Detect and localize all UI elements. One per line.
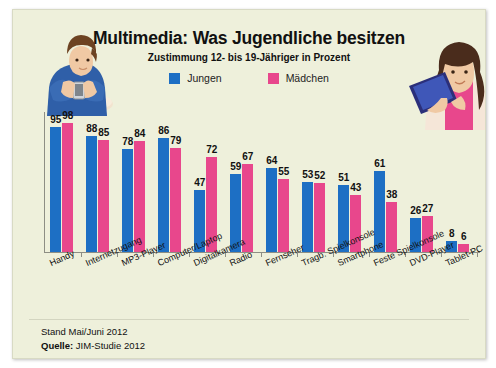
legend-label-jungen: Jungen <box>187 72 221 84</box>
bar-fill <box>98 140 109 252</box>
bar-value-label: 88 <box>86 123 97 134</box>
bar-value-label: 43 <box>350 182 361 193</box>
bar-group: 8679 <box>158 138 181 252</box>
bar-value-label: 79 <box>170 135 181 146</box>
bar-fill <box>158 138 169 252</box>
axis-tick <box>261 253 262 257</box>
bar-fill <box>170 148 181 252</box>
infographic-panel: Multimedia: Was Jugendliche besitzen Zus… <box>12 9 486 359</box>
legend-swatch-maedchen <box>268 73 279 84</box>
bar-value-label: 47 <box>194 177 205 188</box>
bar-maedchen: 52 <box>314 183 325 252</box>
bar-fill <box>266 168 277 252</box>
bar-maedchen: 79 <box>170 148 181 252</box>
page-title: Multimedia: Was Jugendliche besitzen <box>13 28 485 49</box>
bar-value-label: 95 <box>50 114 61 125</box>
bar-fill <box>50 127 61 252</box>
bar-fill <box>278 179 289 252</box>
bar-fill <box>302 182 313 252</box>
bar-value-label: 26 <box>410 205 421 216</box>
bar-value-label: 86 <box>158 125 169 136</box>
bar-fill <box>314 183 325 252</box>
legend-entry-jungen: Jungen <box>169 72 221 84</box>
bar-jungen: 53 <box>302 182 313 252</box>
legend-entry-maedchen: Mädchen <box>268 72 329 84</box>
bar-value-label: 38 <box>386 189 397 200</box>
bar-value-label: 72 <box>206 144 217 155</box>
axis-tick <box>81 253 82 257</box>
bar-group: 9598 <box>50 123 73 252</box>
bar-value-label: 85 <box>98 127 109 138</box>
bar-maedchen: 38 <box>386 202 397 252</box>
legend-label-maedchen: Mädchen <box>286 72 329 84</box>
footer-source: Quelle: JIM-Studie 2012 <box>41 339 145 353</box>
footer-divider <box>29 319 469 320</box>
bar-jungen: 88 <box>86 136 97 252</box>
bar-maedchen: 85 <box>98 140 109 252</box>
bar-jungen: 86 <box>158 138 169 252</box>
bar-value-label: 61 <box>374 158 385 169</box>
footer-source-value: JIM-Studie 2012 <box>76 340 145 351</box>
bar-jungen: 95 <box>50 127 61 252</box>
footer-stand: Stand Mai/Juni 2012 <box>41 325 145 339</box>
bar-value-label: 59 <box>230 161 241 172</box>
bar-group: 5352 <box>302 182 325 252</box>
bar-value-label: 52 <box>314 170 325 181</box>
bar-maedchen: 98 <box>62 123 73 252</box>
bar-maedchen: 55 <box>278 179 289 252</box>
bar-value-label: 51 <box>338 172 349 183</box>
footer-note: Stand Mai/Juni 2012 Quelle: JIM-Studie 2… <box>41 325 145 353</box>
bar-maedchen: 67 <box>242 164 253 252</box>
bar-value-label: 53 <box>302 169 313 180</box>
bar-value-label: 98 <box>62 110 73 121</box>
bar-fill <box>62 123 73 252</box>
bar-value-label: 84 <box>134 128 145 139</box>
bar-value-label: 27 <box>422 203 433 214</box>
bar-chart-plot: 9598888578848679477259676455535251436138… <box>32 106 480 256</box>
bar-value-label: 64 <box>266 155 277 166</box>
bar-jungen: 64 <box>266 168 277 252</box>
bar-fill <box>386 202 397 252</box>
bar-value-label: 55 <box>278 166 289 177</box>
chart-legend: Jungen Mädchen <box>13 72 485 84</box>
bar-group: 8885 <box>86 136 109 252</box>
bar-group: 7884 <box>122 141 145 252</box>
footer-source-label: Quelle: <box>41 340 73 351</box>
legend-swatch-jungen <box>169 73 180 84</box>
bar-fill <box>242 164 253 252</box>
bar-value-label: 67 <box>242 151 253 162</box>
bar-fill <box>86 136 97 252</box>
value-axis-line <box>44 112 45 253</box>
bar-group: 6455 <box>266 168 289 252</box>
page-subtitle: Zustimmung 12- bis 19-Jähriger in Prozen… <box>13 52 485 63</box>
bar-value-label: 6 <box>461 231 467 242</box>
bar-value-label: 8 <box>449 228 455 239</box>
bar-value-label: 78 <box>122 136 133 147</box>
